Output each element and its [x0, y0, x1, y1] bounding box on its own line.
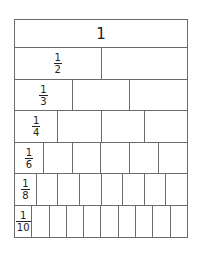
strip-cell [135, 206, 152, 237]
strip-cell [83, 206, 100, 237]
fraction-label: 110 [16, 210, 31, 233]
strip-label-cell: 18 [15, 174, 36, 205]
strip-label-cell: 14 [15, 111, 57, 142]
numerator: 1 [39, 84, 47, 95]
strip-label-cell: 13 [15, 80, 72, 110]
numerator: 1 [32, 115, 40, 126]
strip-label-cell: 1 [15, 20, 187, 47]
strip-cell [165, 174, 187, 205]
strip-cell [72, 143, 101, 173]
denominator: 4 [32, 127, 40, 138]
strip-cell [144, 174, 166, 205]
strip-cell [158, 143, 187, 173]
strip-cell [129, 80, 187, 110]
strip-cell [122, 174, 144, 205]
strip-row-1-over-4: 14 [15, 110, 187, 142]
strip-label-cell: 110 [15, 206, 31, 237]
strip-cell [100, 206, 117, 237]
denominator: 8 [21, 190, 29, 201]
fraction-label: 14 [32, 115, 40, 138]
strip-row-1-over-8: 18 [15, 173, 187, 205]
fraction-strip-chart: 11213141618110 [14, 19, 188, 238]
numerator: 1 [19, 210, 27, 221]
numerator: 1 [54, 52, 62, 63]
strip-cell [57, 174, 79, 205]
strip-cell [36, 174, 58, 205]
fraction-label: 16 [25, 147, 33, 170]
strip-row-1-over-2: 12 [15, 47, 187, 79]
strip-label-cell: 16 [15, 143, 43, 173]
denominator: 10 [16, 222, 31, 233]
strip-cell [144, 111, 187, 142]
strip-cell [170, 206, 187, 237]
strip-cell [152, 206, 169, 237]
whole-label: 1 [96, 25, 106, 43]
strip-row-1-over-3: 13 [15, 79, 187, 110]
numerator: 1 [21, 178, 29, 189]
strip-row-1-over-6: 16 [15, 142, 187, 173]
strip-cell [66, 206, 83, 237]
strip-cell [31, 206, 48, 237]
fraction-label: 12 [54, 52, 62, 75]
fraction-label: 18 [21, 178, 29, 201]
strip-cell [129, 143, 158, 173]
strip-row-1: 1 [15, 20, 187, 47]
denominator: 3 [39, 96, 47, 107]
strip-cell [57, 111, 100, 142]
strip-label-cell: 12 [15, 48, 101, 79]
strip-cell [49, 206, 66, 237]
numerator: 1 [25, 147, 33, 158]
strip-cell [72, 80, 130, 110]
strip-cell [43, 143, 72, 173]
strip-row-1-over-10: 110 [15, 205, 187, 237]
strip-cell [101, 111, 144, 142]
denominator: 2 [54, 64, 62, 75]
fraction-label: 13 [39, 84, 47, 107]
denominator: 6 [25, 159, 33, 170]
strip-cell [118, 206, 135, 237]
strip-cell [79, 174, 101, 205]
strip-cell [101, 48, 188, 79]
strip-cell [100, 143, 129, 173]
strip-cell [101, 174, 123, 205]
